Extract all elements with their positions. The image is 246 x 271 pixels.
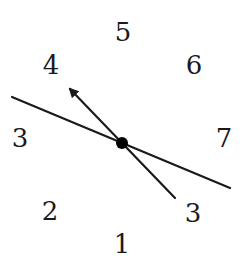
diagram-svg: 5 4 6 3 7 2 3 1 [0,0,246,271]
label-3-right: 3 [185,198,202,228]
label-6: 6 [186,50,203,80]
label-1: 1 [114,229,131,259]
label-5: 5 [115,17,132,47]
label-2: 2 [42,196,59,226]
label-4: 4 [43,50,60,80]
diagram-canvas: 5 4 6 3 7 2 3 1 [0,0,246,271]
label-3-left: 3 [12,123,29,153]
center-point-dot [116,137,128,149]
label-7: 7 [216,123,233,153]
